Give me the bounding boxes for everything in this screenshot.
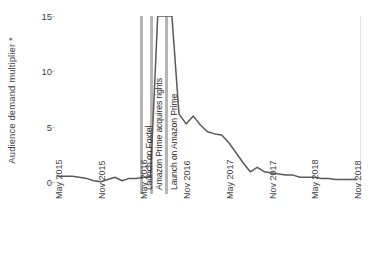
x-tick-label-text: Nov 2016 <box>182 139 192 199</box>
x-tick-label-text: May 2017 <box>225 139 235 199</box>
y-tick-label: 10 <box>12 66 52 77</box>
x-tick-label-text: May 2016 <box>139 139 149 199</box>
x-tick-label-text: May 2015 <box>54 139 64 199</box>
y-tick-label: 5 <box>12 122 52 133</box>
x-tick-label-text: Nov 2017 <box>268 139 278 199</box>
x-tick-label-text: Nov 2018 <box>353 139 363 199</box>
x-tick-label-text: May 2018 <box>310 139 320 199</box>
audience-demand-chart: Audience demand multiplier * 15 10 5 0 L… <box>0 0 378 259</box>
x-tick-label-text: Nov 2015 <box>97 139 107 199</box>
annotation-label-launch-on-amazon-prime: Launch on Amazon Prime <box>169 94 179 190</box>
y-tick-label: 0 <box>12 177 52 188</box>
annotation-label-amazon-prime-acquires-rights: Amazon Prime acquires rights <box>154 78 164 190</box>
y-tick-label: 15 <box>12 11 52 22</box>
y-axis-ticks: 15 10 5 0 <box>8 0 52 210</box>
x-tick-label: Nov 2018 <box>353 199 378 209</box>
